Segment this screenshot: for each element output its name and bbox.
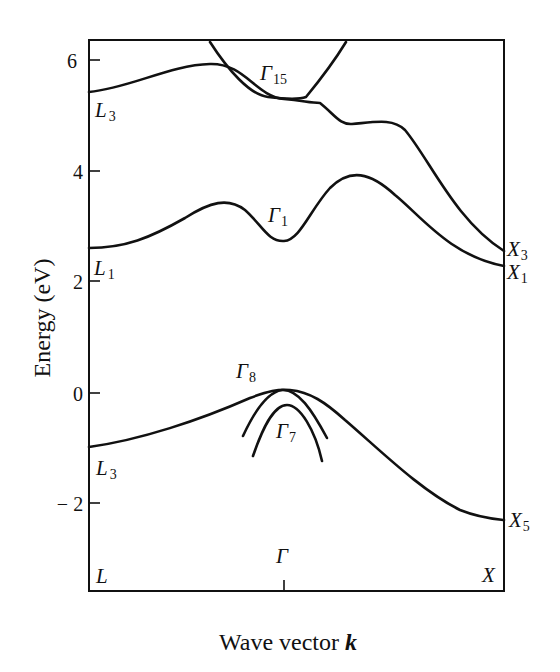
band-L1-G1-X1 [89, 175, 504, 266]
point-label-L: L [95, 564, 108, 588]
label-L1: L1 [93, 256, 115, 282]
y-tick-2: 2 [73, 271, 83, 293]
label-X5: X5 [508, 508, 530, 534]
label-gamma8: Γ8 [235, 359, 256, 385]
band-structure-diagram: 6 4 2 0 − 2 Energy (eV) Wave vector k L … [0, 0, 560, 672]
band-curves [89, 42, 504, 520]
point-label-X: X [481, 563, 496, 587]
label-gamma1: Γ1 [267, 203, 288, 229]
y-tick-6: 6 [67, 50, 77, 72]
label-gamma15: Γ15 [259, 61, 287, 87]
label-L3-bottom: L3 [95, 456, 117, 482]
y-tick-4: 4 [73, 161, 83, 183]
y-axis-ticks [89, 60, 284, 591]
point-label-gamma: Γ [275, 544, 289, 568]
y-tick-0: 0 [73, 383, 83, 405]
band-G15-upper [210, 42, 346, 99]
label-gamma7: Γ7 [275, 419, 296, 445]
y-axis-label: Energy (eV) [29, 259, 55, 378]
y-tick-minus-2: − 2 [57, 493, 83, 515]
band-L3-G15-X3 [89, 64, 504, 251]
x-axis-label: Wave vector k [219, 629, 357, 655]
label-X1: X1 [506, 260, 528, 286]
plot-frame [89, 40, 504, 591]
label-L3-top: L3 [94, 98, 116, 124]
